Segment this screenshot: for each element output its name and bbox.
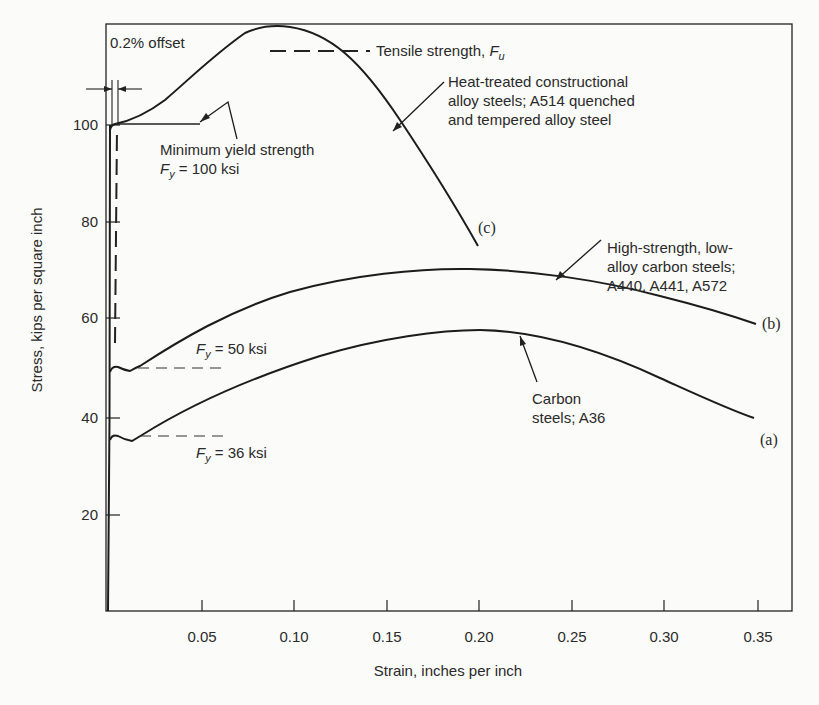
x-tick-0.35: 0.35 <box>743 628 772 645</box>
elastic-line <box>108 125 110 611</box>
x-tick-0.15: 0.15 <box>372 628 401 645</box>
arrowhead-icon <box>200 113 210 122</box>
y-tick-20: 20 <box>81 506 98 523</box>
min-yield-label: Minimum yield strength <box>160 141 314 158</box>
heat-treated-label-3: and tempered alloy steel <box>448 111 611 128</box>
y-tick-60: 60 <box>81 309 98 326</box>
y-tick-100: 100 <box>73 116 98 133</box>
x-tick-0.25: 0.25 <box>557 628 586 645</box>
curve-c <box>110 26 478 246</box>
x-tick-0.10: 0.10 <box>279 628 308 645</box>
hsla-label-2: alloy carbon steels; <box>607 258 735 275</box>
x-axis: 0.05 0.10 0.15 0.20 0.25 0.30 0.35 Strai… <box>187 600 772 679</box>
tensile-strength-label: Tensile strength, Fu <box>376 42 505 62</box>
fy36-label: Fy = 36 ksi <box>196 444 267 464</box>
hsla-label-1: High-strength, low- <box>607 239 733 256</box>
min-yield-pointer <box>200 102 237 139</box>
x-tick-0.20: 0.20 <box>464 628 493 645</box>
curve-b-label: (b) <box>762 315 781 333</box>
offset-line <box>115 128 117 343</box>
fy100-label: Fy = 100 ksi <box>160 160 239 180</box>
heat-treated-pointer <box>393 82 444 131</box>
arrowhead-icon <box>520 336 526 346</box>
offset-indicator: 0.2% offset <box>86 34 186 125</box>
curve-a-label: (a) <box>760 431 778 449</box>
carbon-label-1: Carbon <box>532 390 581 407</box>
carbon-label-2: steels; A36 <box>532 409 605 426</box>
y-tick-80: 80 <box>81 213 98 230</box>
stress-strain-chart: 100 80 60 40 20 Stress, kips per square … <box>0 0 819 705</box>
fy50-label: Fy = 50 ksi <box>196 340 267 360</box>
curve-c-label: (c) <box>478 219 496 237</box>
curve-a <box>110 330 754 441</box>
x-axis-label: Strain, inches per inch <box>374 662 522 679</box>
y-tick-40: 40 <box>81 409 98 426</box>
x-tick-0.05: 0.05 <box>187 628 216 645</box>
heat-treated-label-1: Heat-treated constructional <box>448 73 628 90</box>
hsla-label-3: A440, A441, A572 <box>607 277 727 294</box>
y-axis-label: Stress, kips per square inch <box>28 207 45 392</box>
offset-label: 0.2% offset <box>110 34 186 51</box>
x-tick-0.30: 0.30 <box>649 628 678 645</box>
heat-treated-label-2: alloy steels; A514 quenched <box>448 92 635 109</box>
